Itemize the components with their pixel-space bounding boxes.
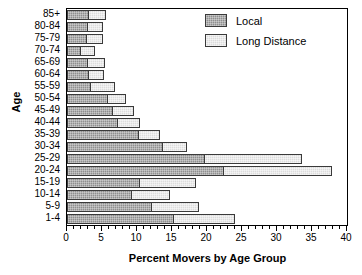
x-axis-minor-tick: [129, 226, 130, 229]
x-axis-minor-tick: [164, 226, 165, 229]
percent-movers-chart: Age 85+80-8475-7970-7465-6960-6455-5950-…: [0, 0, 362, 275]
x-axis-major-tick: [136, 226, 137, 231]
y-axis-tick-label: 1-4: [46, 212, 60, 224]
bar-segment-local: [67, 202, 152, 212]
chart-legend: LocalLong Distance: [205, 14, 306, 54]
y-axis-tick-label: 15-19: [34, 176, 60, 188]
bar-segment-local: [67, 34, 87, 44]
bar-row: [67, 178, 347, 188]
x-axis-tick-label: 25: [228, 232, 254, 243]
bar-segment-local: [67, 94, 108, 104]
y-axis-tick-label: 75-79: [34, 32, 60, 44]
bar-row: [67, 58, 347, 68]
bar-segment-long-distance: [117, 118, 140, 128]
y-axis-tick-label: 50-54: [34, 92, 60, 104]
y-axis-tick-labels: 85+80-8475-7970-7465-6960-6455-5950-5445…: [0, 8, 64, 226]
legend-item: Long Distance: [205, 34, 306, 47]
y-axis-tick-label: 70-74: [34, 44, 60, 56]
legend-label: Long Distance: [236, 35, 306, 47]
legend-swatch: [205, 34, 227, 47]
x-axis-tick-label: 10: [123, 232, 149, 243]
x-axis-minor-tick: [283, 226, 284, 229]
x-axis-minor-tick: [318, 226, 319, 229]
x-axis-minor-tick: [332, 226, 333, 229]
x-axis-minor-tick: [80, 226, 81, 229]
bar-row: [67, 94, 347, 104]
bar-segment-local: [67, 166, 224, 176]
bar-segment-local: [67, 70, 89, 80]
bar-segment-local: [67, 58, 88, 68]
x-axis-tick-label: 0: [53, 232, 79, 243]
x-axis-minor-tick: [255, 226, 256, 229]
bar-segment-long-distance: [131, 190, 170, 200]
x-axis-major-tick: [346, 226, 347, 231]
x-axis-minor-tick: [220, 226, 221, 229]
x-axis-minor-tick: [108, 226, 109, 229]
x-axis-minor-tick: [115, 226, 116, 229]
x-axis-minor-tick: [248, 226, 249, 229]
bar-segment-local: [67, 154, 205, 164]
bar-segment-local: [67, 130, 139, 140]
x-axis-minor-tick: [269, 226, 270, 229]
y-axis-tick-label: 35-39: [34, 128, 60, 140]
x-axis-minor-tick: [297, 226, 298, 229]
bar-segment-local: [67, 118, 118, 128]
x-axis-major-tick: [311, 226, 312, 231]
bar-segment-local: [67, 10, 89, 20]
y-axis-tick-label: 25-29: [34, 152, 60, 164]
x-axis-minor-tick: [227, 226, 228, 229]
x-axis-major-tick: [206, 226, 207, 231]
bar-segment-long-distance: [204, 154, 302, 164]
bar-row: [67, 166, 347, 176]
x-axis-tick-label: 5: [88, 232, 114, 243]
x-axis-minor-tick: [94, 226, 95, 229]
y-axis-tick-label: 85+: [43, 8, 60, 20]
x-axis-tick-labels: 0510152025303540: [0, 232, 362, 246]
y-axis-tick-label: 40-44: [34, 116, 60, 128]
x-axis-minor-tick: [157, 226, 158, 229]
bar-segment-local: [67, 142, 163, 152]
x-axis-minor-tick: [73, 226, 74, 229]
bar-segment-long-distance: [173, 214, 235, 224]
y-axis-tick-label: 5-9: [46, 200, 60, 212]
bar-row: [67, 142, 347, 152]
bar-segment-long-distance: [138, 130, 160, 140]
bar-segment-long-distance: [87, 58, 105, 68]
x-axis-minor-tick: [213, 226, 214, 229]
x-axis-title: Percent Movers by Age Group: [66, 252, 349, 264]
x-axis-major-tick: [241, 226, 242, 231]
x-axis-minor-tick: [150, 226, 151, 229]
x-axis-tick-label: 20: [193, 232, 219, 243]
bar-segment-long-distance: [112, 106, 134, 116]
x-axis-minor-tick: [325, 226, 326, 229]
x-axis-minor-tick: [199, 226, 200, 229]
x-axis-minor-tick: [122, 226, 123, 229]
bar-row: [67, 154, 347, 164]
x-axis-major-tick: [276, 226, 277, 231]
x-axis-minor-tick: [87, 226, 88, 229]
y-axis-tick-label: 10-14: [34, 188, 60, 200]
bar-segment-local: [67, 178, 140, 188]
legend-swatch: [205, 14, 227, 27]
bar-row: [67, 130, 347, 140]
x-axis-tick-label: 35: [298, 232, 324, 243]
bar-segment-long-distance: [87, 22, 103, 32]
y-axis-tick-label: 80-84: [34, 20, 60, 32]
y-axis-tick-label: 60-64: [34, 68, 60, 80]
bar-row: [67, 214, 347, 224]
legend-label: Local: [236, 15, 262, 27]
x-axis-minor-tick: [234, 226, 235, 229]
bar-segment-long-distance: [107, 94, 126, 104]
x-axis-major-tick: [66, 226, 67, 231]
bar-row: [67, 202, 347, 212]
x-axis-tick-label: 40: [333, 232, 359, 243]
bar-segment-long-distance: [88, 10, 106, 20]
bar-segment-local: [67, 82, 91, 92]
y-axis-tick-label: 65-69: [34, 56, 60, 68]
legend-item: Local: [205, 14, 306, 27]
x-axis-tick-label: 30: [263, 232, 289, 243]
bar-segment-long-distance: [223, 166, 333, 176]
bar-segment-local: [67, 46, 81, 56]
bar-segment-long-distance: [162, 142, 188, 152]
bar-segment-long-distance: [90, 82, 115, 92]
